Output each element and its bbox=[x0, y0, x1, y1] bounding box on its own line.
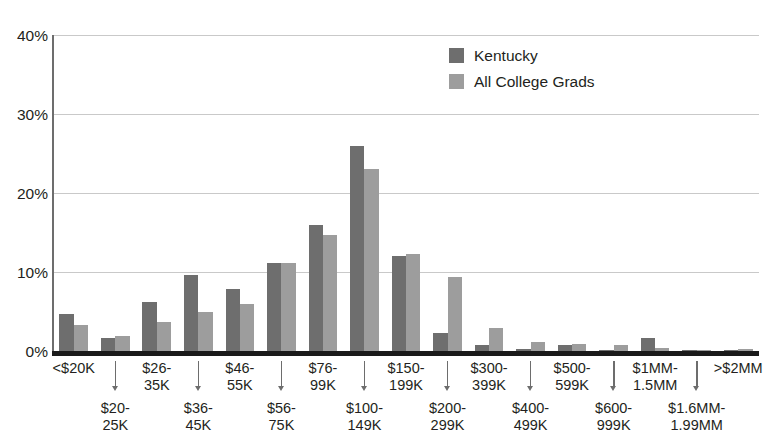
y-tick-0: 0% bbox=[2, 344, 48, 360]
bar-kentucky bbox=[392, 256, 406, 351]
bar-all-college-grads bbox=[198, 312, 212, 352]
y-axis-labels: 40% 30% 20% 10% 0% bbox=[0, 0, 48, 448]
y-tick-10: 10% bbox=[2, 265, 48, 281]
bar-all-college-grads bbox=[281, 263, 295, 351]
bar-kentucky bbox=[309, 225, 323, 351]
x-axis-label: $400- 499K bbox=[486, 400, 576, 434]
y-tick-30: 30% bbox=[2, 107, 48, 123]
x-axis-label: $56- 75K bbox=[236, 400, 326, 434]
bar-group bbox=[101, 35, 130, 351]
bar-group bbox=[226, 35, 255, 351]
x-axis-label: $500- 599K bbox=[527, 360, 617, 394]
bar-kentucky bbox=[226, 289, 240, 351]
x-axis-line bbox=[52, 351, 759, 356]
bar-all-college-grads bbox=[157, 322, 171, 351]
x-axis-label: $100- 149K bbox=[319, 400, 409, 434]
bar-chart: 40% 30% 20% 10% 0% Kentucky All College … bbox=[0, 0, 765, 448]
x-axis-label: >$2MM bbox=[693, 360, 765, 377]
bar-all-college-grads bbox=[406, 254, 420, 351]
bar-all-college-grads bbox=[240, 304, 254, 351]
bar-all-college-grads bbox=[364, 169, 378, 351]
bar-group bbox=[350, 35, 379, 351]
bar-group bbox=[392, 35, 421, 351]
bar-kentucky bbox=[101, 338, 115, 351]
bar-group bbox=[724, 35, 753, 351]
x-axis-label: $150- 199K bbox=[361, 360, 451, 394]
x-axis-label: $76- 99K bbox=[278, 360, 368, 394]
x-axis-label: $26- 35K bbox=[112, 360, 202, 394]
bar-all-college-grads bbox=[572, 344, 586, 351]
bar-group bbox=[59, 35, 88, 351]
y-tick-20: 20% bbox=[2, 186, 48, 202]
bar-kentucky bbox=[142, 302, 156, 351]
bar-group bbox=[309, 35, 338, 351]
x-axis-label: $200- 299K bbox=[403, 400, 493, 434]
legend-item-kentucky: Kentucky bbox=[449, 46, 689, 65]
bar-kentucky bbox=[350, 146, 364, 351]
x-axis-label: $600- 999K bbox=[569, 400, 659, 434]
bar-all-college-grads bbox=[74, 325, 88, 351]
legend-swatch-icon bbox=[449, 74, 464, 89]
x-axis-label: $46- 55K bbox=[195, 360, 285, 394]
legend-label-all-college-grads: All College Grads bbox=[474, 74, 595, 90]
x-axis-label: $1.6MM- 1.99MM bbox=[652, 400, 742, 434]
bar-group bbox=[184, 35, 213, 351]
bar-kentucky bbox=[184, 275, 198, 351]
x-axis-label: $300- 399K bbox=[444, 360, 534, 394]
legend-swatch-icon bbox=[449, 48, 464, 63]
bar-all-college-grads bbox=[489, 328, 503, 351]
x-axis-label: <$20K bbox=[29, 360, 119, 377]
legend-item-all-college-grads: All College Grads bbox=[449, 72, 689, 91]
chart-legend: Kentucky All College Grads bbox=[449, 46, 689, 98]
bar-kentucky bbox=[59, 314, 73, 351]
x-axis-labels: <$20K$20- 25K$26- 35K$36- 45K$46- 55K$56… bbox=[53, 358, 759, 448]
bar-all-college-grads bbox=[531, 342, 545, 351]
bar-group bbox=[142, 35, 171, 351]
bar-kentucky bbox=[267, 263, 281, 351]
x-axis-label: $1MM- 1.5MM bbox=[610, 360, 700, 394]
x-axis-label: $36- 45K bbox=[153, 400, 243, 434]
bar-all-college-grads bbox=[448, 277, 462, 351]
legend-label-kentucky: Kentucky bbox=[474, 48, 538, 64]
y-axis-line bbox=[52, 35, 54, 352]
bar-kentucky bbox=[641, 338, 655, 351]
bar-all-college-grads bbox=[115, 336, 129, 351]
x-axis-label: $20- 25K bbox=[70, 400, 160, 434]
bar-all-college-grads bbox=[323, 235, 337, 351]
y-tick-40: 40% bbox=[2, 28, 48, 44]
bar-group bbox=[267, 35, 296, 351]
bar-kentucky bbox=[433, 333, 447, 351]
